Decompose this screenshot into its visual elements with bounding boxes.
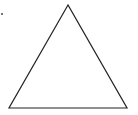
diagram-canvas — [0, 0, 138, 115]
triangle-shape — [9, 5, 127, 108]
diagram-svg — [0, 0, 138, 115]
dot-marker — [1, 13, 3, 15]
